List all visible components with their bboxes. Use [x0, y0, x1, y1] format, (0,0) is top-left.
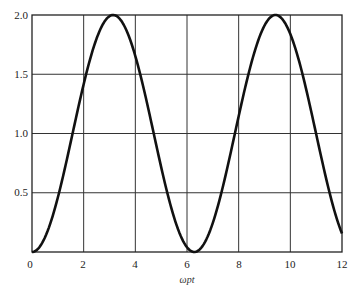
y-tick-label: 2.0	[14, 9, 28, 21]
y-tick-label: 0.5	[14, 186, 28, 198]
x-tick-label: 0	[27, 258, 33, 270]
x-tick-label: 8	[236, 258, 242, 270]
x-tick-label: 6	[184, 258, 190, 270]
x-tick-label: 4	[132, 258, 138, 270]
x-axis-label: ωpt	[180, 274, 195, 285]
x-tick-label: 12	[337, 258, 348, 270]
y-tick-label: 1.0	[14, 127, 28, 139]
x-tick-label: 10	[285, 258, 297, 270]
y-tick-label: 1.5	[14, 68, 28, 80]
x-tick-label: 2	[80, 258, 86, 270]
line-chart: 0.5 1.0 1.5 2.0 0 2 4 6 8 10 12 ωpt	[0, 0, 355, 296]
